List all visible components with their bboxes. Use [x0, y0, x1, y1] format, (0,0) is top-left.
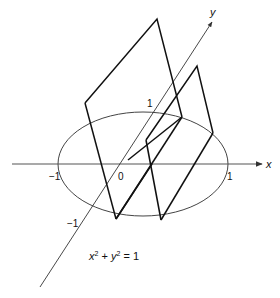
circle-equation: x2 + y2 = 1: [88, 250, 139, 262]
small-plane-bottom-edge: [161, 133, 213, 220]
tick-x-neg1: −1: [49, 171, 61, 182]
tick-y-neg1: −1: [67, 218, 79, 229]
large-plane-left-edge: [85, 103, 116, 219]
x-axis-label: x: [265, 158, 272, 170]
y-axis-label: y: [209, 6, 217, 18]
tick-y-1: 1: [147, 98, 153, 109]
diagram-svg: y x −1 1 0 1 −1 x2 + y2 = 1: [0, 0, 280, 298]
y-axis: [40, 22, 212, 287]
small-plane-outline: [146, 66, 213, 140]
large-plane-outline: [85, 19, 182, 117]
tick-x-1: 1: [227, 171, 233, 182]
diagram-canvas: y x −1 1 0 1 −1 x2 + y2 = 1: [0, 0, 280, 298]
origin-label: 0: [118, 171, 124, 182]
